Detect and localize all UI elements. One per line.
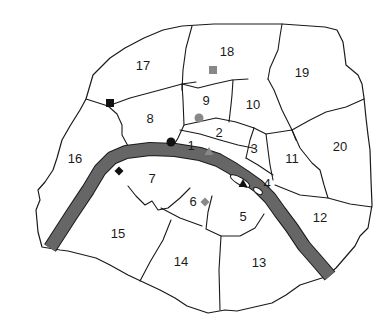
label-arr-12: 12 [313, 210, 327, 225]
label-arr-9: 9 [202, 93, 209, 108]
label-arr-20: 20 [333, 139, 347, 154]
gray-triangle-marker-icon [204, 146, 214, 156]
black-square-marker-icon [105, 98, 115, 108]
label-arr-14: 14 [174, 254, 188, 269]
label-arr-8: 8 [146, 111, 153, 126]
label-arr-3: 3 [250, 141, 257, 156]
gray-diamond-marker-icon [200, 197, 210, 207]
black-triangle-marker-icon [238, 178, 248, 188]
gray-circle-marker-icon [194, 113, 204, 123]
label-arr-1: 1 [187, 138, 194, 153]
label-arr-6: 6 [189, 194, 196, 209]
black-diamond-marker-icon [114, 166, 124, 176]
label-arr-15: 15 [111, 226, 125, 241]
label-arr-10: 10 [246, 97, 260, 112]
label-arr-7: 7 [148, 171, 155, 186]
map-canvas [0, 0, 392, 334]
label-arr-17: 17 [136, 58, 150, 73]
label-arr-19: 19 [295, 65, 309, 80]
label-arr-11: 11 [285, 151, 299, 166]
paris-arrondissement-map: 1 2 3 4 5 6 7 8 9 10 11 12 13 14 15 16 1… [0, 0, 392, 334]
label-arr-18: 18 [220, 44, 234, 59]
label-arr-5: 5 [239, 209, 246, 224]
label-arr-4: 4 [263, 176, 270, 191]
label-arr-16: 16 [68, 151, 82, 166]
label-arr-2: 2 [215, 125, 222, 140]
gray-square-marker-icon [208, 65, 218, 75]
black-circle-marker-icon [166, 137, 176, 147]
label-arr-13: 13 [252, 255, 266, 270]
